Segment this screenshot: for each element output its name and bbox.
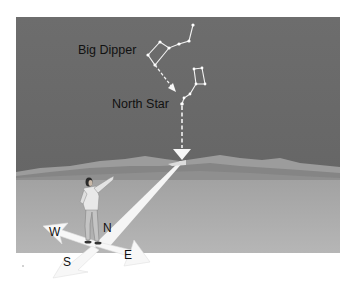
ground <box>16 180 340 253</box>
north-star-label: North Star <box>112 98 169 111</box>
compass-north-label: N <box>103 222 112 234</box>
compass-west-label: W <box>49 226 60 238</box>
big-dipper-label: Big Dipper <box>78 44 136 57</box>
north-star-diagram <box>0 0 351 298</box>
compass-south-label: S <box>63 256 71 268</box>
compass-east-label: E <box>124 249 132 261</box>
scan-speck <box>22 265 24 267</box>
